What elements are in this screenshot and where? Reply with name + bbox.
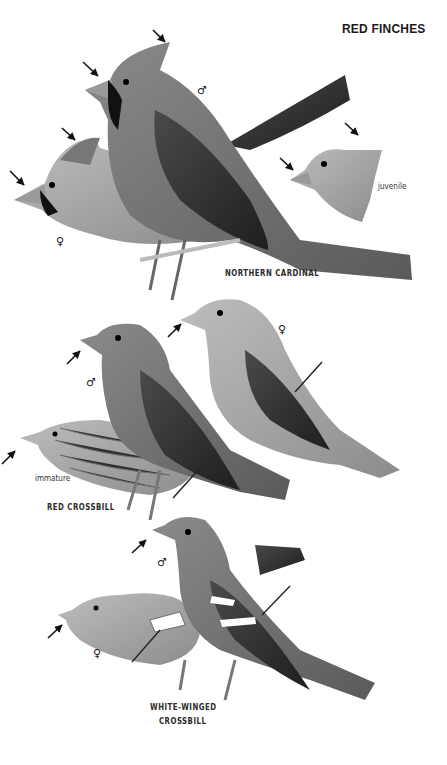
species-name-white-winged-line2: CROSSBILL	[159, 716, 206, 726]
immature-label: immature	[35, 473, 70, 483]
male-symbol-icon: ♂	[157, 556, 167, 569]
species-name-red-crossbill: RED CROSSBILL	[47, 502, 115, 512]
male-symbol-icon: ♂	[197, 84, 207, 97]
wwcrossbill-female-figure	[58, 593, 201, 665]
species-name-northern-cardinal: NORTHERN CARDINAL	[225, 268, 319, 278]
female-symbol-icon: ♀	[278, 323, 286, 336]
juvenile-label: juvenile	[378, 181, 406, 191]
species-name-white-winged-line1: WHITE-WINGED	[150, 702, 216, 712]
cardinal-juvenile-head	[290, 149, 382, 222]
illustration-plate	[0, 0, 447, 765]
male-symbol-icon: ♂	[86, 376, 96, 389]
wwcrossbill-male-figure	[152, 517, 375, 700]
female-symbol-icon: ♀	[93, 647, 101, 660]
female-symbol-icon: ♀	[56, 235, 64, 248]
